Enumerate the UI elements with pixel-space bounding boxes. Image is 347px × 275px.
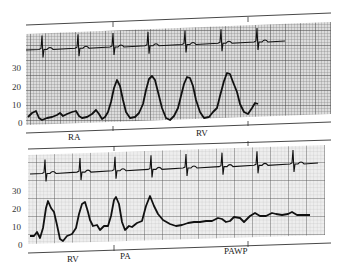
bottom-y-label-30: 30	[12, 186, 22, 196]
top-y-label-0: 0	[18, 118, 23, 128]
top-grid-paper	[26, 22, 331, 125]
label-rv-bottom: RV	[67, 254, 79, 264]
bottom-y-label-20: 20	[12, 204, 22, 214]
bottom-y-label-0: 0	[18, 240, 23, 250]
bottom-panel: 30 20 10 0 RV PA PAWP	[12, 140, 331, 264]
pressure-tracing-figure: 30 20 10 0 RA RV 30 20 10 0 RV PA PAWP	[0, 0, 347, 275]
top-panel: 30 20 10 0 RA RV	[12, 13, 331, 142]
label-pawp: PAWP	[224, 246, 247, 256]
bottom-grid-paper	[28, 145, 325, 244]
bottom-panel-lower-rule	[28, 243, 331, 253]
bottom-y-label-10: 10	[12, 222, 22, 232]
label-pa: PA	[120, 251, 131, 261]
top-y-label-30: 30	[12, 63, 22, 73]
top-y-label-20: 20	[12, 82, 22, 92]
label-rv-top: RV	[196, 128, 208, 138]
top-y-label-10: 10	[12, 100, 22, 110]
top-panel-upper-rule	[26, 13, 331, 25]
label-ra: RA	[68, 132, 81, 142]
